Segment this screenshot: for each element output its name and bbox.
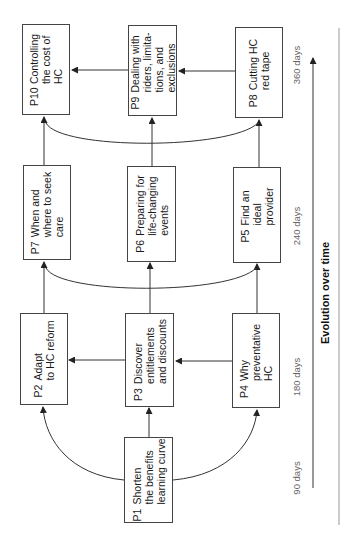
- node-p7-text: P7When and where to seek care: [29, 171, 65, 253]
- node-p4: P4Why preventative HC: [232, 313, 280, 408]
- node-p6-text: P6Preparing for life-changing events: [134, 175, 170, 253]
- edge-p1-p4: [173, 410, 257, 480]
- diagram-canvas: P10Controlling the cost of HC P9Dealing …: [0, 0, 347, 544]
- node-p9: P9Dealing with riders, limita- tions, an…: [128, 25, 177, 116]
- node-p2-text: P2Adapt to HC reform: [32, 320, 56, 397]
- node-p5-text: P5Find an ideal provider: [239, 188, 275, 243]
- node-p7: P7When and where to seek care: [23, 165, 71, 260]
- node-p1: P1Shorten the benefits learning curve: [124, 437, 173, 523]
- node-p3: P3Discover entitlements and discounts: [125, 313, 174, 407]
- edge-p1-p2: [43, 407, 124, 480]
- node-p3-text: P3Discover entitlements and discounts: [132, 319, 168, 401]
- node-p6: P6Preparing for life-changing events: [127, 166, 176, 262]
- node-p8: P8Cutting HC red tape: [235, 27, 283, 118]
- node-p10: P10Controlling the cost of HC: [22, 24, 70, 115]
- node-p2: P2Adapt to HC reform: [20, 313, 68, 405]
- node-p8-text: P8Cutting HC red tape: [247, 38, 271, 106]
- node-p1-text: P1Shorten the benefits learning curve: [131, 439, 167, 522]
- tick-180-days: 180 days: [291, 358, 302, 397]
- tick-360-days: 360 days: [291, 46, 302, 85]
- node-p9-text: P9Dealing with riders, limita- tions, an…: [129, 32, 177, 109]
- timeline-title: Evolution over time: [319, 242, 331, 344]
- tick-90-days: 90 days: [291, 461, 302, 494]
- node-p5: P5Find an ideal provider: [233, 167, 281, 263]
- tick-240-days: 240 days: [291, 207, 302, 246]
- node-p4-text: P4Why preventative HC: [238, 323, 274, 397]
- node-p10-text: P10Controlling the cost of HC: [28, 33, 64, 105]
- edge-p7-p5-arc: [46, 268, 256, 288]
